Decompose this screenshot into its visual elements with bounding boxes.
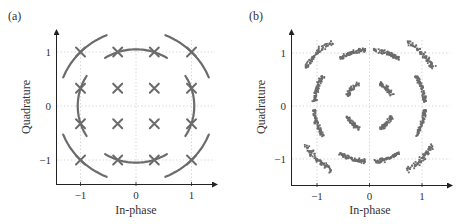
x-tick-label: −1	[75, 189, 87, 201]
x-tick-label: 0	[367, 190, 373, 202]
x-tick-label: 1	[189, 189, 195, 201]
panel-b: (b) −101−101 In-phase Quadrature	[249, 9, 452, 217]
x-tick-label: 0	[133, 189, 139, 201]
constellation-marker	[113, 84, 122, 93]
y-tick-label: 1	[281, 47, 287, 59]
y-tick-label: −1	[274, 153, 286, 165]
panel-a-ylabel: Quadrature	[19, 80, 33, 134]
x-tick-label: −1	[311, 190, 323, 202]
y-tick-label: 0	[281, 100, 287, 112]
panel-a-label: (a)	[8, 9, 21, 23]
y-tick-label: 1	[46, 46, 52, 58]
y-tick-label: 0	[46, 100, 52, 112]
panel-b-points	[304, 40, 437, 173]
panel-a-xlabel: In-phase	[115, 203, 156, 217]
panel-b-xlabel: In-phase	[349, 203, 390, 217]
figure: (a) −101−101 In-phase Quadrature (b) −10…	[0, 0, 467, 224]
y-tick-label: −1	[39, 154, 51, 166]
x-tick-label: 1	[419, 190, 425, 202]
panel-b-ylabel: Quadrature	[254, 80, 268, 134]
panel-a: (a) −101−101 In-phase Quadrature	[8, 9, 217, 217]
panel-b-label: (b)	[249, 9, 263, 23]
constellation-marker	[113, 119, 122, 128]
constellation-marker	[150, 84, 159, 93]
panel-b-ticks: −101−101	[274, 47, 424, 202]
constellation-marker	[150, 119, 159, 128]
